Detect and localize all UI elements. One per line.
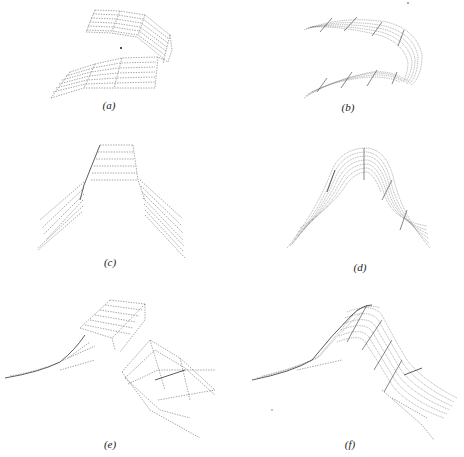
panel-f: (f) xyxy=(232,290,464,457)
panel-b-label: (b) xyxy=(342,101,355,113)
wireframe-surface-f xyxy=(232,290,464,457)
wireframe-surface-a xyxy=(0,0,232,120)
panel-a-label: (a) xyxy=(103,99,116,111)
panel-d-label: (d) xyxy=(354,261,367,273)
wireframe-surface-c xyxy=(0,140,232,275)
panel-c: (c) xyxy=(0,140,232,275)
wireframe-surface-e xyxy=(0,290,232,457)
panel-a: (a) xyxy=(0,0,232,120)
panel-c-label: (c) xyxy=(104,256,116,268)
panel-e-label: (e) xyxy=(104,438,116,450)
panel-d: (d) xyxy=(232,140,464,280)
panel-e: (e) xyxy=(0,290,232,457)
wireframe-surface-d xyxy=(232,140,464,280)
panel-f-label: (f) xyxy=(345,438,355,450)
panel-b: (b) xyxy=(232,0,464,120)
